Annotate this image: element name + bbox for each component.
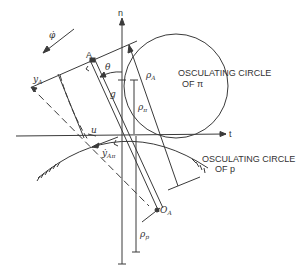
label-circle-p-2: OF p <box>215 164 235 174</box>
label-rho-p: ρp <box>139 229 149 241</box>
label-rho-pi: ρπ <box>137 102 148 113</box>
label-u: u <box>91 125 97 135</box>
label-A: A <box>86 50 92 60</box>
osculating-circle-pi <box>124 34 228 138</box>
kinematics-diagram: n t φ̇ A θ g ρA ρπ ρp yA ẏAπ u OA OSCULA… <box>0 0 298 276</box>
label-circle-p-1: OSCULATING CIRCLE <box>202 154 295 164</box>
dashed-yA-line <box>31 87 149 206</box>
label-phi-dot: φ̇ <box>49 30 56 40</box>
label-n: n <box>118 8 123 18</box>
label-circle-pi-2: OF π <box>182 79 203 89</box>
label-y-A: yA <box>32 74 43 85</box>
label-O-A: OA <box>160 205 172 216</box>
label-t: t <box>229 129 232 139</box>
label-circle-pi-1: OSCULATING CIRCLE <box>178 68 271 78</box>
label-rho-A: ρA <box>145 70 156 81</box>
label-g: g <box>110 89 116 99</box>
label-y-dot-A-pi: ẏAπ <box>101 148 116 159</box>
osculating-circle-p-arc <box>38 141 208 178</box>
label-theta: θ <box>105 62 111 72</box>
